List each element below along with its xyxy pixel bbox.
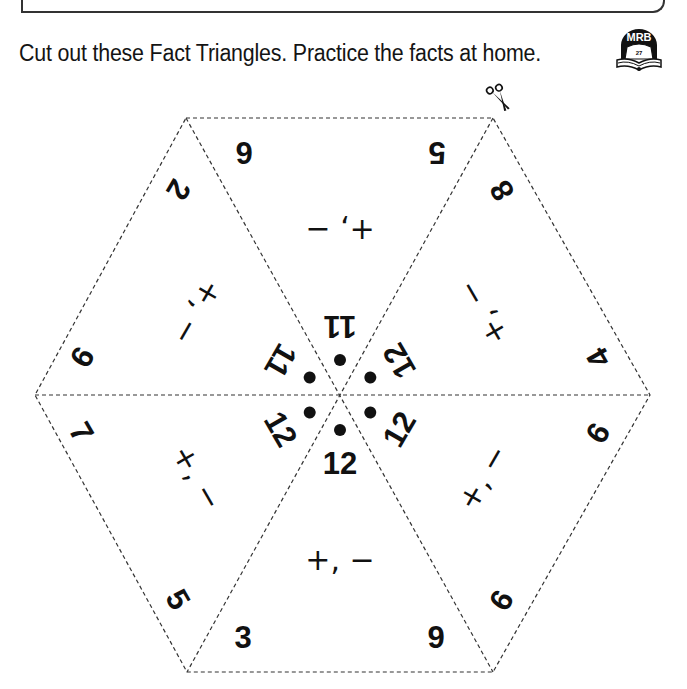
sum-dot-icon	[362, 404, 378, 420]
fact-triangle-bottom[interactable]: 12 +, − 3 9	[234, 424, 444, 655]
triangle-fact-left: 5	[428, 135, 445, 170]
triangle-sum: 12	[376, 406, 424, 453]
sum-dot-icon	[362, 369, 378, 385]
sum-dot-icon	[301, 369, 317, 385]
triangle-fact-left: 2	[159, 174, 198, 206]
triangle-fact-right: 6	[235, 135, 252, 170]
fact-triangle-top[interactable]: 11 +, − 5 6	[235, 135, 445, 366]
fact-triangles-hexagon: 12 +, − 3 9 12 +, − 7 5 11 +, − 2 9 11 +…	[0, 0, 687, 689]
triangle-fact-right: 6	[579, 417, 618, 449]
sum-dot-icon	[334, 424, 346, 436]
triangle-sum: 11	[257, 338, 304, 384]
triangle-operations: +, −	[165, 274, 230, 352]
triangle-sum: 11	[324, 309, 357, 344]
triangle-sum: 12	[376, 337, 424, 384]
cut-lines	[35, 118, 650, 672]
triangle-operations: +, −	[450, 438, 515, 516]
triangle-fact-right: 8	[483, 174, 522, 206]
triangle-sum: 12	[323, 446, 357, 481]
sum-dot-icon	[334, 354, 346, 366]
triangle-operations: +, −	[450, 274, 515, 352]
triangle-fact-right: 9	[63, 341, 102, 373]
triangle-fact-left: 6	[482, 584, 521, 616]
triangle-operations: +, −	[165, 438, 230, 516]
triangle-fact-left: 4	[579, 341, 618, 374]
triangle-fact-right: 5	[159, 583, 198, 615]
sum-dot-icon	[301, 404, 317, 420]
triangle-fact-right: 9	[427, 620, 444, 655]
scissors-icon	[485, 81, 514, 114]
triangle-operations: +, −	[305, 542, 374, 577]
triangle-fact-left: 3	[234, 620, 251, 655]
triangle-fact-left: 7	[62, 416, 101, 448]
triangle-operations: +, −	[305, 213, 374, 248]
triangle-sum: 12	[257, 406, 305, 453]
